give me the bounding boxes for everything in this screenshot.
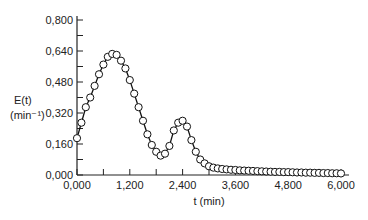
data-point — [91, 82, 98, 89]
x-tick-label: 1,200 — [116, 179, 144, 191]
data-point — [144, 131, 151, 138]
x-tick-label: 4,800 — [274, 179, 302, 191]
y-tick-label: 0,800 — [45, 14, 73, 26]
x-tick-label: 3,600 — [222, 179, 250, 191]
data-point — [161, 150, 168, 157]
data-point — [126, 76, 133, 83]
y-tick-label: 0,320 — [45, 107, 73, 119]
data-point — [100, 61, 107, 68]
data-point — [82, 104, 89, 111]
data-point — [122, 65, 129, 72]
data-point — [78, 119, 85, 126]
y-axis-label-line1: E(t) — [14, 94, 32, 106]
x-tick-label: 0,000 — [63, 179, 91, 191]
data-point — [95, 71, 102, 78]
y-tick-label: 0,480 — [45, 76, 73, 88]
data-point — [117, 57, 124, 64]
data-point — [166, 142, 173, 149]
data-point — [135, 104, 142, 111]
x-tick-label: 2,400 — [169, 179, 197, 191]
y-tick-label: 0,160 — [45, 138, 73, 150]
axes: 0,0000,1600,3200,4800,6400,8000,0001,200… — [45, 14, 354, 191]
data-point — [192, 148, 199, 155]
x-axis-label: t (min) — [193, 195, 224, 207]
data-point — [337, 170, 344, 177]
data-point — [87, 94, 94, 101]
data-point — [131, 90, 138, 97]
plot-series — [73, 50, 344, 177]
data-point — [148, 141, 155, 148]
y-axis-label-line2: (min⁻¹) — [10, 109, 45, 121]
data-point — [188, 137, 195, 144]
y-tick-label: 0,640 — [45, 45, 73, 57]
series-line — [77, 54, 341, 173]
data-point — [183, 123, 190, 130]
rtd-chart: 0,0000,1600,3200,4800,6400,8000,0001,200… — [0, 0, 368, 220]
data-point — [139, 117, 146, 124]
data-point — [73, 135, 80, 142]
data-point — [170, 127, 177, 134]
x-tick-label: 6,000 — [327, 179, 355, 191]
